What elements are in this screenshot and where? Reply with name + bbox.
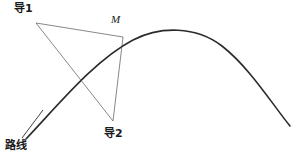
route-label: 路线 (5, 140, 27, 151)
diagram-canvas (0, 0, 303, 164)
guide1-to-guide2-line (36, 23, 113, 121)
point-m-label: M (111, 14, 120, 25)
guide1-to-m-line (36, 23, 123, 37)
route-diagram-figure: 导1 M 导2 路线 (0, 0, 303, 164)
guide2-label: 导2 (104, 128, 123, 139)
guide1-label: 导1 (14, 3, 33, 14)
route-curve (26, 30, 290, 139)
